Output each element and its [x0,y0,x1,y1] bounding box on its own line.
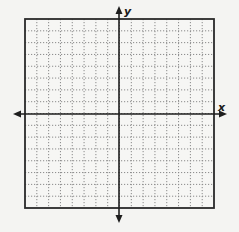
y-axis-label: y [124,5,132,18]
x-axis-left-arrow-icon [13,111,21,118]
y-axis-top-arrow-icon [116,6,123,14]
y-axis-bottom-arrow-icon [116,215,123,223]
x-axis-label: x [217,101,226,114]
coordinate-plane: x y [0,0,239,232]
